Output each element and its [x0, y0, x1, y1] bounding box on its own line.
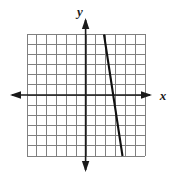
coordinate-grid-figure: y x — [0, 0, 178, 183]
coordinate-plane-svg: y x — [0, 0, 178, 183]
x-axis-label: x — [159, 88, 167, 103]
y-axis-label: y — [75, 4, 83, 19]
